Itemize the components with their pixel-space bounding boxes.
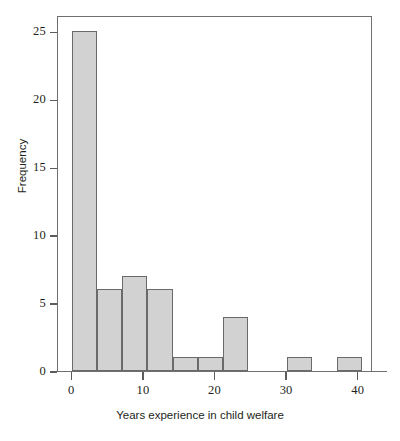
y-tick-mark	[50, 303, 57, 304]
y-tick-label: 5	[4, 296, 46, 311]
histogram-bar	[287, 357, 312, 371]
x-tick-mark	[71, 372, 72, 380]
y-tick-mark	[50, 371, 57, 372]
y-tick-mark	[50, 235, 57, 236]
histogram-bar	[223, 317, 248, 371]
histogram-figure: 0510152025 010203040 Years experience in…	[0, 0, 400, 441]
x-tick-mark	[285, 372, 286, 380]
x-tick-mark	[142, 372, 143, 380]
y-axis-line	[57, 16, 58, 372]
x-tick-mark	[214, 372, 215, 380]
histogram-bar	[97, 289, 122, 371]
histogram-bar	[173, 357, 198, 371]
x-tick-label: 40	[338, 383, 378, 398]
histogram-bar	[147, 289, 172, 371]
y-tick-label: 20	[4, 92, 46, 107]
x-tick-label: 20	[195, 383, 235, 398]
y-axis-title: Frequency	[16, 126, 28, 206]
histogram-bar	[198, 357, 223, 371]
histogram-bar	[122, 276, 147, 371]
y-tick-mark	[50, 100, 57, 101]
x-tick-label: 10	[123, 383, 163, 398]
y-tick-label: 0	[4, 364, 46, 379]
y-tick-mark	[50, 32, 57, 33]
plot-area	[57, 16, 372, 372]
histogram-bar	[72, 31, 97, 371]
histogram-bar	[337, 357, 362, 371]
y-tick-label: 25	[4, 24, 46, 39]
y-tick-mark	[50, 168, 57, 169]
x-tick-label: 0	[51, 383, 91, 398]
x-tick-label: 30	[266, 383, 306, 398]
bars-layer	[58, 17, 371, 371]
x-axis-title: Years experience in child welfare	[0, 409, 400, 421]
x-axis-line	[57, 371, 387, 372]
x-tick-mark	[357, 372, 358, 380]
y-tick-label: 10	[4, 228, 46, 243]
